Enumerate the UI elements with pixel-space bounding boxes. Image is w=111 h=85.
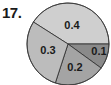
pie-chart: 0.4 0.1 0.2 0.3 [0,0,111,85]
slice-label-0.4: 0.4 [64,19,80,31]
slice-label-0.2: 0.2 [67,61,82,73]
slice-label-0.1: 0.1 [91,45,106,57]
slice-label-0.3: 0.3 [40,44,55,56]
